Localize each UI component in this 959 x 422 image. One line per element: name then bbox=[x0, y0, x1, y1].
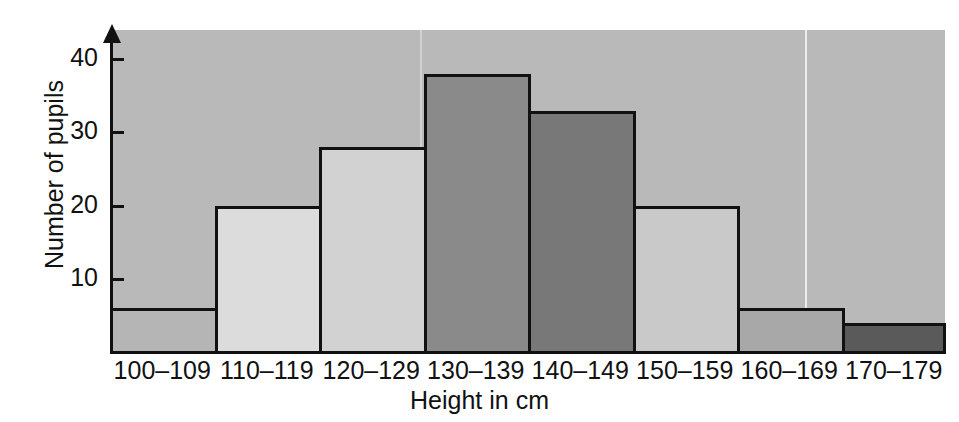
x-label-130-139: 130–139 bbox=[424, 356, 529, 385]
y-tick-20 bbox=[113, 205, 124, 208]
x-label-160-169: 160–169 bbox=[737, 356, 842, 385]
y-axis-line bbox=[110, 38, 113, 354]
x-label-140-149: 140–149 bbox=[528, 356, 633, 385]
x-axis-title: Height in cm bbox=[0, 386, 959, 415]
y-tick-30 bbox=[113, 131, 124, 134]
bar-120-129 bbox=[319, 147, 427, 354]
x-label-150-159: 150–159 bbox=[633, 356, 738, 385]
histogram-figure: 10203040 100–109110–119120–129130–139140… bbox=[0, 0, 959, 422]
bar-100-109 bbox=[110, 308, 218, 354]
y-axis-title: Number of pupils bbox=[40, 25, 69, 325]
y-tick-40 bbox=[113, 58, 124, 61]
bar-160-169 bbox=[737, 308, 845, 354]
x-label-170-179: 170–179 bbox=[842, 356, 947, 385]
bar-130-139 bbox=[424, 74, 532, 354]
bar-140-149 bbox=[528, 111, 636, 355]
bar-series bbox=[110, 30, 946, 354]
bar-110-119 bbox=[215, 206, 323, 354]
x-label-110-119: 110–119 bbox=[215, 356, 320, 385]
x-label-120-129: 120–129 bbox=[319, 356, 424, 385]
x-label-100-109: 100–109 bbox=[110, 356, 215, 385]
x-axis-line bbox=[110, 351, 946, 354]
y-tick-10 bbox=[113, 278, 124, 281]
bar-150-159 bbox=[633, 206, 741, 354]
bar-170-179 bbox=[842, 323, 947, 354]
y-axis-arrow-icon bbox=[103, 24, 121, 43]
